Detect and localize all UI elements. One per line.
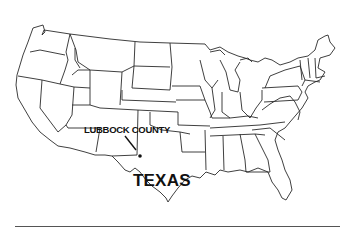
bottom-rule [15, 226, 340, 227]
lubbock-county-label: LUBBOCK COUNTY [84, 124, 170, 135]
us-map [0, 0, 340, 238]
texas-label: TEXAS [133, 171, 191, 191]
lubbock-county-dot [138, 154, 142, 158]
